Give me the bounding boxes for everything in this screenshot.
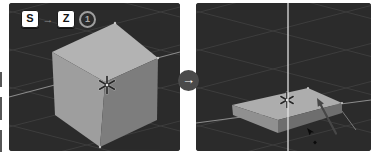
viewport-after-scene bbox=[196, 3, 371, 151]
key-z: Z bbox=[57, 10, 75, 28]
viewport-after-panel bbox=[196, 3, 371, 151]
pivot-center-dot bbox=[106, 84, 109, 87]
panel-transition-arrow-icon: → bbox=[178, 70, 199, 91]
key-sequence-arrow-icon: → bbox=[42, 13, 54, 25]
viewport-before-panel: S → Z 1 bbox=[9, 3, 180, 151]
tutorial-figure: S → Z 1 → bbox=[0, 0, 377, 165]
cropped-edge-artifact bbox=[0, 130, 2, 152]
shortcut-keys: S → Z 1 bbox=[21, 10, 96, 28]
key-s: S bbox=[21, 10, 39, 28]
step-1-badge: 1 bbox=[79, 11, 96, 28]
cropped-edge-artifact bbox=[0, 72, 2, 87]
cropped-edge-artifact bbox=[0, 97, 2, 120]
